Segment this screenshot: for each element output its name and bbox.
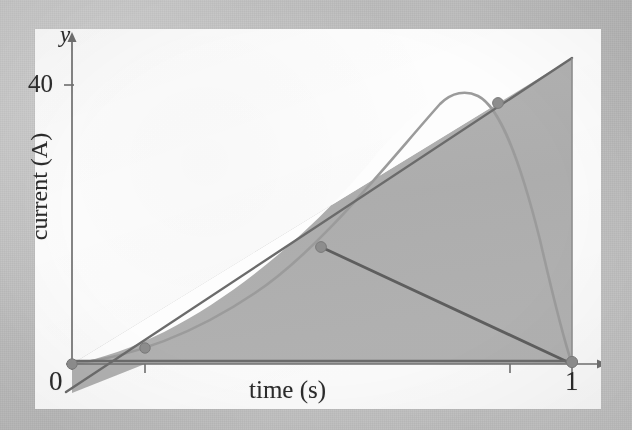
figure-svg (0, 0, 632, 430)
y-axis-symbol: y (60, 22, 70, 48)
xtick-label-0: 0 (49, 366, 63, 397)
origin-marker (67, 359, 77, 369)
y-axis-title: current (A) (26, 112, 53, 262)
xtick-label-1: 1 (565, 366, 579, 397)
upper-tangency-marker (493, 98, 504, 109)
x-axis-title: time (s) (249, 376, 326, 404)
ytick-label-40: 40 (28, 70, 53, 98)
mid-intersection-marker (316, 242, 327, 253)
shaded-lower-wedge (72, 364, 145, 393)
x-axis-arrow-icon (597, 360, 607, 369)
lower-crossing-marker (140, 343, 150, 353)
